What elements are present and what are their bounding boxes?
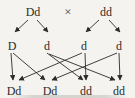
offspring-dd-3: dd	[80, 84, 92, 98]
arrow-parent-dd-to-gamete-d4	[109, 20, 120, 32]
offspring-Dd-2: Dd	[43, 84, 58, 98]
gamete-d-3: d	[81, 39, 87, 53]
gamete-d-4: d	[116, 39, 122, 53]
offspring-Dd-1: Dd	[7, 84, 22, 98]
cross-multiplication-symbol: ×	[64, 4, 71, 19]
gamete-D: D	[8, 39, 17, 53]
arrow-parent-Dd-to-gamete-D	[15, 20, 28, 32]
arrow-gamete-D-to-offspring-Dd1	[11, 53, 13, 80]
diagram-svg: Dd × dd D d d d Dd Dd dd dd	[0, 0, 135, 98]
arrow-parent-dd-to-gamete-d3	[86, 20, 99, 32]
parent-genotype-dd: dd	[100, 5, 112, 19]
arrow-parent-Dd-to-gamete-d	[37, 20, 48, 32]
offspring-dd-4: dd	[113, 84, 125, 98]
genetics-cross-diagram: Dd × dd D d d d Dd Dd dd dd	[0, 0, 135, 98]
arrow-gamete-d4-to-offspring-dd4	[119, 53, 120, 80]
arrow-gamete-d4-to-offspring-Dd2	[52, 53, 117, 80]
parent-genotype-Dd: Dd	[26, 5, 41, 19]
arrow-gamete-d2-to-offspring-dd3	[47, 53, 83, 80]
gamete-d-2: d	[44, 39, 50, 53]
